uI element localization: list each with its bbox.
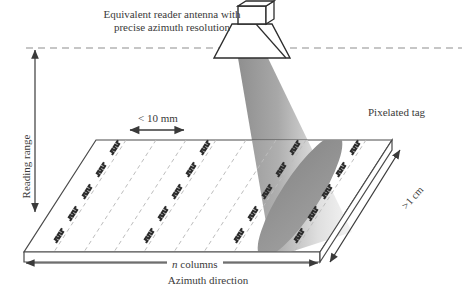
column-width-label: < 10 mm bbox=[118, 112, 198, 125]
antenna-title: Equivalent reader antenna with precise a… bbox=[76, 8, 268, 34]
pixelated-tag-label: Pixelated tag bbox=[368, 106, 425, 119]
antenna-title-line2: precise azimuth resolution bbox=[114, 21, 230, 33]
rfid-pixelated-tag-diagram bbox=[0, 0, 468, 307]
azimuth-direction-label: Azimuth direction bbox=[24, 274, 392, 287]
antenna-title-line1: Equivalent reader antenna with bbox=[103, 8, 240, 20]
n-columns-label: n columns bbox=[167, 258, 223, 271]
figure-container: Equivalent reader antenna with precise a… bbox=[0, 0, 468, 307]
reading-range-label: Reading range bbox=[20, 123, 33, 209]
figure-caption bbox=[24, 296, 444, 307]
n-columns-text: columns bbox=[178, 258, 218, 270]
